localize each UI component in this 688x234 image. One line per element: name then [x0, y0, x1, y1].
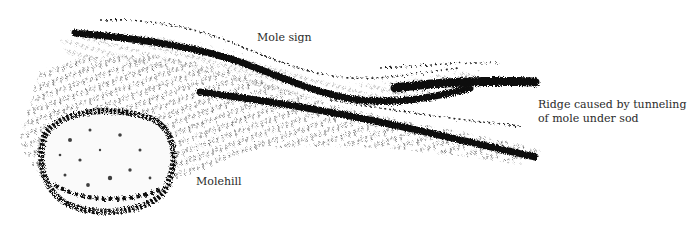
mole-sign-label: Mole sign [257, 31, 312, 45]
ridge-label-line2: of mole under sod [538, 112, 686, 126]
illustration-canvas: Mole sign Ridge caused by tunneling of m… [0, 0, 688, 234]
molehill-label: Molehill [196, 175, 242, 189]
ridge-label-line1: Ridge caused by tunneling [538, 98, 686, 112]
molehill-mound [36, 108, 180, 212]
ridge-label: Ridge caused by tunneling of mole under … [538, 98, 686, 126]
